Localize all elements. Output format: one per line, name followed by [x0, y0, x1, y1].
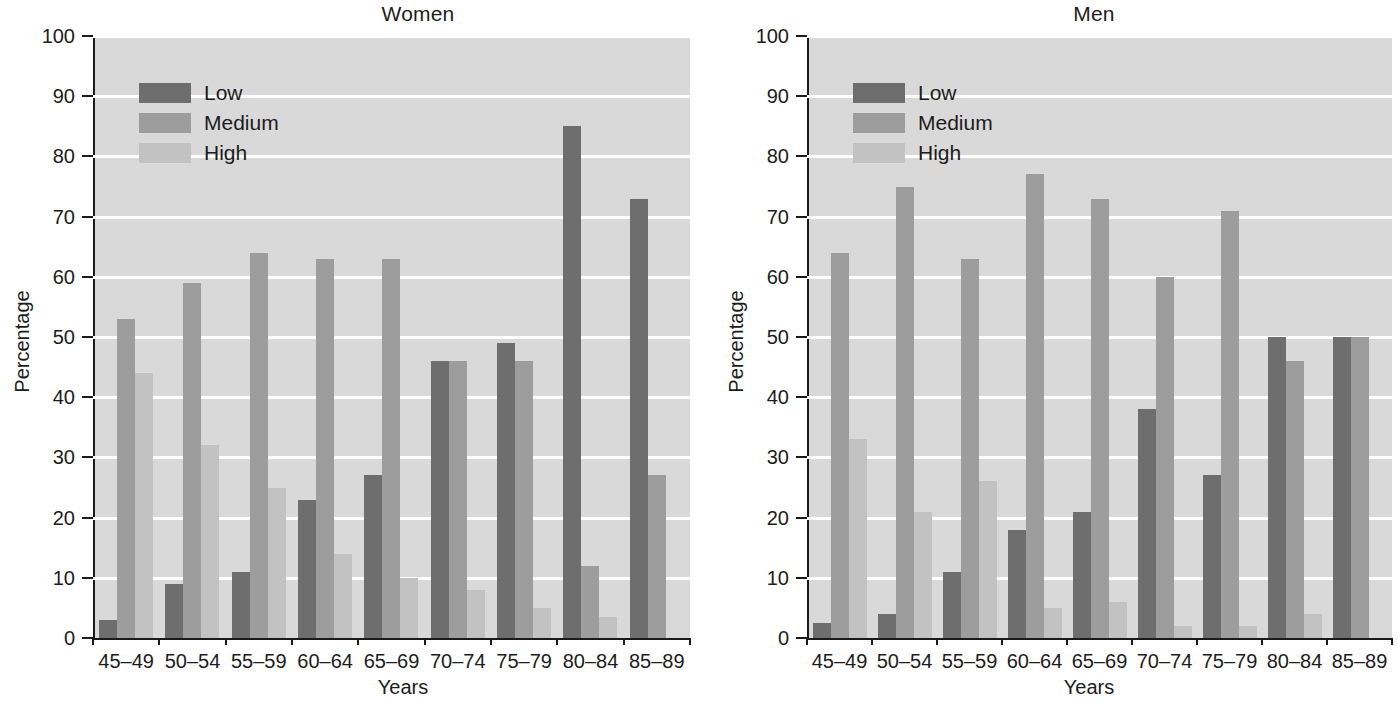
y-tick-label: 50	[53, 327, 75, 347]
x-axis-tick	[490, 638, 492, 645]
bar-medium	[1026, 174, 1044, 638]
x-tick-label: 75–79	[1197, 638, 1262, 678]
x-axis-tick	[158, 638, 160, 645]
bar-low	[878, 614, 896, 638]
bar-medium	[316, 259, 334, 638]
bar-medium	[1091, 199, 1109, 638]
bar-medium	[896, 187, 914, 639]
y-axis-tick	[796, 517, 807, 519]
x-tick-label: 55–59	[937, 638, 1002, 678]
bar-group	[1002, 36, 1067, 638]
y-tick-label: 80	[53, 146, 75, 166]
bar-high	[1174, 626, 1192, 638]
y-axis-tick	[796, 336, 807, 338]
y-axis-tick	[796, 637, 807, 639]
bar-group	[1327, 36, 1392, 638]
x-tick-label: 70–74	[425, 638, 491, 678]
y-tick-label: 70	[767, 207, 789, 227]
bar-medium	[1156, 277, 1174, 638]
bar-high	[1239, 626, 1257, 638]
x-tick-label: 45–49	[807, 638, 872, 678]
y-axis-tick	[796, 456, 807, 458]
x-axis-tick	[1261, 638, 1263, 645]
y-axis-label-women: Percentage	[11, 262, 34, 422]
x-tick-label: 85–89	[1327, 638, 1392, 678]
x-tick-labels-women: 45–4950–5455–5960–6465–6970–7475–7980–84…	[93, 638, 690, 678]
bar-high	[400, 578, 418, 638]
y-tick-label: 30	[53, 447, 75, 467]
x-tick-label: 65–69	[358, 638, 424, 678]
x-axis-tick	[357, 638, 359, 645]
y-axis-tick	[796, 577, 807, 579]
bar-low	[1138, 409, 1156, 638]
y-axis-tick	[796, 95, 807, 97]
bar-low	[298, 500, 316, 638]
legend-item-high: High	[853, 138, 993, 168]
legend-label-low: Low	[204, 81, 243, 105]
y-axis-tick	[796, 35, 807, 37]
x-axis-tick	[1131, 638, 1133, 645]
x-tick-label: 65–69	[1067, 638, 1132, 678]
y-tick-label: 90	[53, 86, 75, 106]
y-axis-tick	[796, 396, 807, 398]
legend-item-high: High	[139, 138, 279, 168]
legend-label-medium: Medium	[204, 111, 279, 135]
y-axis-tick	[82, 517, 93, 519]
bar-low	[1203, 475, 1221, 638]
legend-label-high: High	[918, 141, 961, 165]
x-axis-tick	[92, 638, 94, 645]
x-tick-label: 80–84	[557, 638, 623, 678]
bar-group	[358, 36, 424, 638]
y-tick-label: 60	[53, 267, 75, 287]
legend-item-medium: Medium	[853, 108, 993, 138]
x-tick-label: 50–54	[159, 638, 225, 678]
y-axis-tick	[796, 155, 807, 157]
legend-swatch-medium	[853, 113, 905, 133]
y-tick-label: 0	[778, 628, 789, 648]
legend-swatch-medium	[139, 113, 191, 133]
bar-high	[979, 481, 997, 638]
bar-medium	[961, 259, 979, 638]
bar-medium	[1286, 361, 1304, 638]
x-axis-tick	[225, 638, 227, 645]
y-tick-label: 20	[53, 508, 75, 528]
bar-group	[557, 36, 623, 638]
legend-swatch-high	[139, 143, 191, 163]
y-axis-tick	[82, 577, 93, 579]
bar-medium	[1351, 337, 1369, 638]
x-tick-label: 70–74	[1132, 638, 1197, 678]
bar-group	[1197, 36, 1262, 638]
bar-group	[292, 36, 358, 638]
x-tick-label: 80–84	[1262, 638, 1327, 678]
y-axis-tick	[82, 155, 93, 157]
x-axis-tick	[936, 638, 938, 645]
bar-high	[849, 439, 867, 638]
y-axis-tick	[82, 336, 93, 338]
bar-group	[1132, 36, 1197, 638]
bar-low	[99, 620, 117, 638]
x-tick-label: 85–89	[624, 638, 690, 678]
bar-high	[533, 608, 551, 638]
y-tick-label: 0	[64, 628, 75, 648]
plot-area-women: Low Medium High 45–4950–5455–5960–6465–6…	[93, 36, 690, 638]
legend-men: Low Medium High	[853, 78, 993, 168]
x-tick-label: 50–54	[872, 638, 937, 678]
bar-high	[135, 373, 153, 638]
bar-high	[1304, 614, 1322, 638]
y-axis-label-men: Percentage	[725, 262, 748, 422]
bar-medium	[515, 361, 533, 638]
bar-group	[425, 36, 491, 638]
x-axis-label-men: Years	[696, 676, 1397, 699]
chart-panel-women: Women Percentage Low Medium High	[0, 0, 696, 712]
bar-low	[431, 361, 449, 638]
legend-swatch-high	[853, 143, 905, 163]
y-tick-label: 80	[767, 146, 789, 166]
y-tick-label: 40	[53, 387, 75, 407]
y-axis-tick	[82, 95, 93, 97]
y-tick-label: 50	[767, 327, 789, 347]
y-tick-label: 100	[42, 26, 75, 46]
y-tick-label: 30	[767, 447, 789, 467]
legend-item-low: Low	[853, 78, 993, 108]
chart-title-women: Women	[0, 2, 766, 26]
